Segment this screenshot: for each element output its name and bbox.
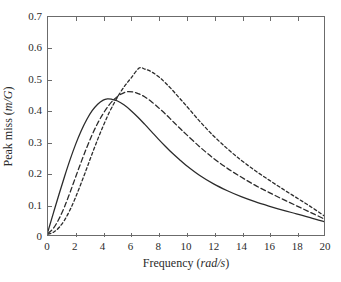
y-tick-label: 0.4	[8, 105, 42, 116]
series-line-curve-3	[48, 67, 324, 234]
y-tick-label: 0.3	[8, 136, 42, 147]
x-tick-label: 10	[181, 241, 192, 252]
curves-svg	[48, 17, 324, 235]
x-tick-label: 0	[44, 241, 50, 252]
y-tick-label: 0	[8, 231, 42, 242]
x-axis-label-text: Frequency	[143, 256, 194, 270]
x-tick-label: 18	[292, 241, 303, 252]
x-axis-units: rad/s	[200, 256, 225, 270]
x-tick-label: 12	[208, 241, 219, 252]
curves-group	[48, 67, 324, 234]
x-tick-label: 6	[128, 241, 134, 252]
plot-area	[47, 16, 325, 236]
x-tick-label: 8	[155, 241, 161, 252]
x-tick-label: 4	[100, 241, 106, 252]
x-tick-label: 2	[72, 241, 78, 252]
y-tick-label: 0.1	[8, 199, 42, 210]
y-tick-label: 0.6	[8, 42, 42, 53]
y-tick-label: 0.2	[8, 168, 42, 179]
series-line-curve-1	[48, 99, 324, 231]
figure-container: Peak miss (m/G) 00.10.20.30.40.50.60.7 0…	[0, 0, 341, 282]
x-tick-label: 20	[320, 241, 331, 252]
y-tick-label: 0.7	[8, 11, 42, 22]
x-axis-label: Frequency (rad/s)	[47, 256, 325, 271]
y-tick-label: 0.5	[8, 73, 42, 84]
x-tick-label: 14	[236, 241, 247, 252]
x-tick-label: 16	[264, 241, 275, 252]
